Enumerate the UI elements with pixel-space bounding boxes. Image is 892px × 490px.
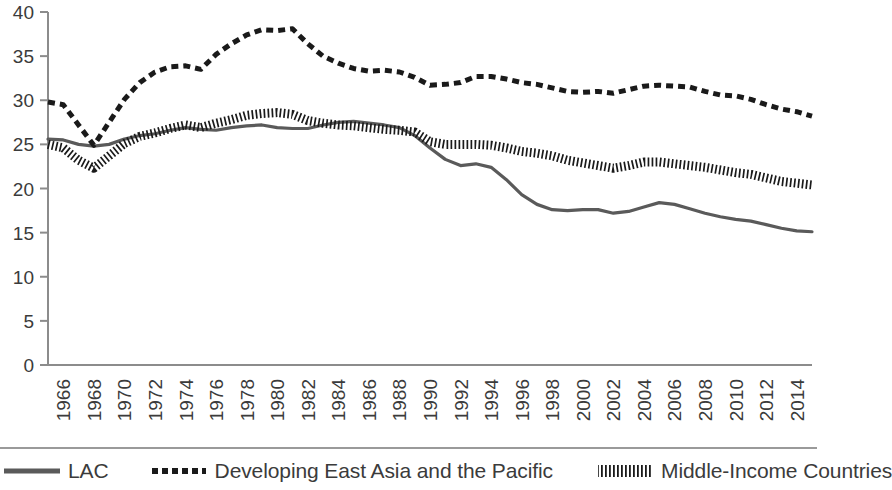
y-axis-tick-label: 5 [23,311,34,332]
legend-key-fine-hatch-icon [597,464,653,478]
y-axis-tick-label: 15 [13,223,34,244]
x-axis-tick-label: 1966 [53,379,74,421]
x-axis-tick-label: 1976 [206,379,227,421]
chart-legend: LAC Developing East Asia and the Pacific… [0,452,817,490]
x-axis-tick-label: 1992 [451,379,472,421]
x-axis-tick-label: 1990 [420,379,441,421]
x-axis-tick-label: 1980 [267,379,288,421]
legend-divider [0,447,817,449]
line-chart-plot: 0510152025303540 19661968197019721974197… [0,0,817,450]
x-axis-tick-label: 2014 [787,379,808,422]
legend-label-middle-income-countries: Middle-Income Countries [661,459,892,483]
x-axis-tick-label: 1970 [114,379,135,421]
y-axis-tick-label: 40 [13,2,34,23]
x-axis-tick-label: 1978 [237,379,258,421]
legend-label-lac: LAC [68,459,109,483]
y-axis-tick-label: 10 [13,267,34,288]
x-axis-tick-label: 2002 [603,379,624,421]
y-axis-tick-label: 20 [13,179,34,200]
x-axis-tick-label: 1974 [176,379,197,422]
y-axis-ticks: 0510152025303540 [13,2,48,376]
x-axis-tick-label: 1968 [84,379,105,421]
y-axis-tick-label: 25 [13,134,34,155]
x-axis-tick-label: 1988 [389,379,410,421]
y-axis-tick-label: 35 [13,46,34,67]
x-axis-tick-label: 1998 [542,379,563,421]
y-axis-tick-label: 30 [13,90,34,111]
data-series-layer [48,29,812,232]
x-axis-tick-label: 2004 [634,379,655,422]
legend-item-middle-income-countries[interactable]: Middle-Income Countries [597,452,892,490]
x-axis-tick-label: 1994 [481,379,502,422]
x-axis-tick-label: 1982 [298,379,319,421]
legend-key-solid-icon [4,464,60,478]
legend-key-dashed-icon [151,464,207,478]
legend-item-developing-east-asia-pacific[interactable]: Developing East Asia and the Pacific [151,452,553,490]
x-axis-tick-label: 2010 [726,379,747,421]
x-axis-tick-label: 2006 [664,379,685,421]
x-axis-tick-label: 2012 [756,379,777,421]
x-axis-tick-label: 2000 [573,379,594,421]
y-axis-tick-label: 0 [23,355,34,376]
x-axis-tick-label: 1984 [328,379,349,422]
x-axis-tick-label: 1996 [512,379,533,421]
x-axis-tick-label: 2008 [695,379,716,421]
x-axis-tick-labels: 1966196819701972197419761978198019821984… [53,379,807,422]
x-axis-tick-label: 1986 [359,379,380,421]
legend-item-lac[interactable]: LAC [4,452,109,490]
legend-label-developing-east-asia-pacific: Developing East Asia and the Pacific [215,459,553,483]
x-axis-tick-label: 1972 [145,379,166,421]
